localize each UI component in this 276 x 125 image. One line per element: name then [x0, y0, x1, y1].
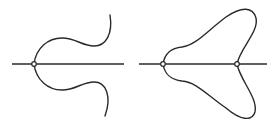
left-figure [12, 15, 124, 116]
diagram-canvas [0, 0, 276, 125]
left-node [32, 62, 37, 67]
right-figure [139, 9, 267, 118]
left-lower-curve [34, 64, 108, 116]
left-upper-curve [34, 15, 111, 64]
right-left-node [161, 62, 166, 67]
right-right-node [235, 62, 240, 67]
